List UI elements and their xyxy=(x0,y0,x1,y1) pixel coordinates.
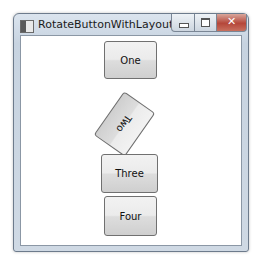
minimize-button[interactable] xyxy=(171,14,195,32)
maximize-button[interactable] xyxy=(194,14,217,32)
close-button[interactable]: ✕ xyxy=(216,14,247,32)
app-icon[interactable] xyxy=(20,20,34,33)
minimize-icon xyxy=(179,23,189,28)
button-four[interactable]: Four xyxy=(104,196,157,236)
close-icon: ✕ xyxy=(227,15,236,28)
window-title: RotateButtonWithLayout xyxy=(38,18,173,31)
button-one[interactable]: One xyxy=(104,41,157,79)
title-bar[interactable]: RotateButtonWithLayout ✕ xyxy=(14,14,248,36)
maximize-icon xyxy=(201,18,210,27)
button-three[interactable]: Three xyxy=(101,154,158,193)
